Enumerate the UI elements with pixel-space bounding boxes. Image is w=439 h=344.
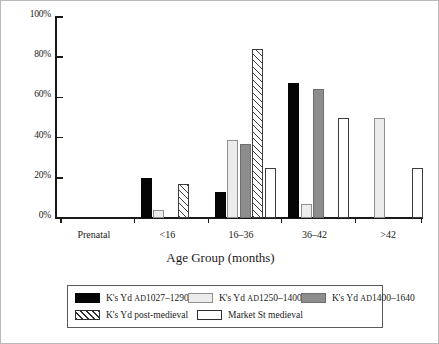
y-axis-tick-mark [55, 137, 63, 139]
y-axis-tick-mark [55, 16, 63, 18]
x-axis-group-label: 16–36 [229, 229, 254, 240]
bar [153, 210, 164, 218]
legend-label: Market St medieval [228, 310, 303, 320]
x-axis-tick-mark [60, 218, 61, 223]
legend-label: K's Yd post-medieval [106, 310, 188, 320]
x-axis-group-label: 36–42 [302, 229, 327, 240]
legend-swatch-light-gray-solid [188, 293, 213, 303]
x-axis-tick-mark [421, 218, 422, 223]
legend-swatch-mid-gray-solid [301, 293, 326, 303]
y-axis-line [55, 17, 57, 218]
chart-legend: K's Yd AD1027–1290K's Yd AD1250–1400K's … [67, 285, 383, 328]
y-axis-tick-label: 40% [34, 130, 51, 140]
bar [227, 140, 238, 218]
legend-entry[interactable]: K's Yd AD1250–1400 [188, 293, 301, 303]
bar [252, 49, 263, 218]
bar [265, 168, 276, 218]
legend-entry[interactable]: K's Yd post-medieval [75, 310, 197, 320]
bar [141, 178, 152, 218]
y-axis-tick-mark [55, 217, 63, 219]
bar [374, 118, 385, 219]
legend-row: K's Yd post-medievalMarket St medieval [75, 308, 375, 322]
x-axis-group-label: <16 [160, 229, 176, 240]
legend-entry[interactable]: K's Yd AD1400–1640 [301, 293, 415, 303]
legend-label: K's Yd AD1027–1290 [106, 293, 189, 303]
chart-figure: 0%20%40%60%80%100% Prenatal<1616–3636–42… [0, 0, 439, 344]
y-axis-tick-mark [55, 177, 63, 179]
bar [215, 192, 226, 218]
bar [178, 184, 189, 218]
bar [301, 204, 312, 218]
y-axis-tick-label: 100% [30, 9, 51, 19]
y-axis-tick-mark [55, 56, 63, 58]
legend-entry[interactable]: K's Yd AD1027–1290 [75, 293, 188, 303]
bar [338, 118, 349, 219]
legend-label: K's Yd AD1400–1640 [332, 293, 415, 303]
x-axis-tick-mark [281, 218, 282, 223]
bar [288, 83, 299, 218]
bar [412, 168, 423, 218]
y-axis-tick-label: 20% [34, 170, 51, 180]
legend-entry[interactable]: Market St medieval [197, 310, 303, 320]
legend-swatch-diagonal-hatch [75, 310, 100, 320]
x-axis-tick-mark [355, 218, 356, 223]
bar [313, 89, 324, 218]
x-axis-title: Age Group (months) [1, 250, 439, 266]
x-axis-tick-mark [134, 218, 135, 223]
y-axis-tick-label: 0% [39, 210, 51, 220]
legend-swatch-black-solid [75, 293, 100, 303]
legend-swatch-white-outline [197, 310, 222, 320]
plot-area: 0%20%40%60%80%100% Prenatal<1616–3636–42… [55, 17, 423, 218]
legend-row: K's Yd AD1027–1290K's Yd AD1250–1400K's … [75, 291, 375, 305]
x-axis-tick-mark [208, 218, 209, 223]
y-axis-tick-label: 80% [34, 49, 51, 59]
bar [240, 144, 251, 218]
y-axis-tick-label: 60% [34, 89, 51, 99]
y-axis-tick-mark [55, 97, 63, 99]
x-axis-group-label: Prenatal [77, 229, 110, 240]
x-axis-group-label: >42 [380, 229, 396, 240]
legend-label: K's Yd AD1250–1400 [219, 293, 302, 303]
